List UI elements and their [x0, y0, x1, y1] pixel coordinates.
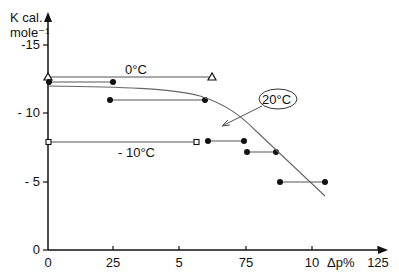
- label-0c: 0°C: [125, 62, 147, 77]
- x-tick-label: 125: [363, 255, 393, 270]
- series-minus10c: [46, 140, 199, 145]
- square-marker-icon: [46, 140, 51, 145]
- label-20c: 20°C: [262, 92, 291, 107]
- y-tick-label: - 10: [0, 105, 40, 120]
- x-tick-label: 10: [297, 255, 327, 270]
- y-tick-label: - 5: [0, 174, 40, 189]
- x-tick-label: 75: [231, 255, 261, 270]
- x-axis-arrow-icon: [378, 246, 388, 254]
- y-axis-arrow-icon: [44, 12, 52, 22]
- y-axis-label-line1: K cal.: [10, 10, 43, 25]
- x-tick-label: 25: [98, 255, 128, 270]
- chart-plot: [0, 0, 399, 279]
- label-minus10c: - 10°C: [118, 145, 155, 160]
- x-tick-label: 5: [164, 255, 194, 270]
- y-tick-label: -15: [0, 37, 40, 52]
- square-marker-icon: [194, 140, 199, 145]
- x-tick-label: 0: [33, 255, 63, 270]
- x-axis-label: Δp%: [327, 255, 354, 270]
